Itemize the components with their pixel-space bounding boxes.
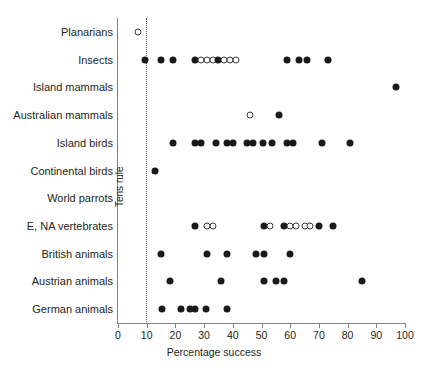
y-axis-category-label: Continental birds (0, 165, 113, 177)
data-point (212, 139, 219, 146)
data-point (272, 278, 279, 285)
data-point (261, 278, 268, 285)
data-point (330, 222, 337, 229)
x-tick (233, 323, 234, 328)
plot-area (118, 18, 405, 323)
x-tick (376, 323, 377, 328)
data-point (249, 139, 256, 146)
x-tick-label: 50 (256, 329, 268, 341)
data-point (290, 139, 297, 146)
x-tick-label: 20 (170, 329, 182, 341)
x-tick-label: 100 (396, 329, 414, 341)
data-point (304, 56, 311, 63)
data-point (158, 250, 165, 257)
x-tick-label: 70 (313, 329, 325, 341)
data-point (169, 56, 176, 63)
x-tick-label: 40 (227, 329, 239, 341)
data-point (178, 306, 185, 313)
data-point (268, 139, 275, 146)
data-point (259, 139, 266, 146)
data-point (166, 278, 173, 285)
data-point (247, 112, 254, 119)
data-point (292, 222, 299, 229)
x-tick-label: 90 (370, 329, 382, 341)
data-point (324, 56, 331, 63)
data-point (307, 222, 314, 229)
data-point (192, 306, 199, 313)
y-axis-category-label: Australian mammals (0, 109, 113, 121)
data-point (393, 84, 400, 91)
x-tick (147, 323, 148, 328)
x-tick-label: 60 (284, 329, 296, 341)
data-point (135, 28, 142, 35)
data-point (261, 250, 268, 257)
data-point (287, 250, 294, 257)
data-point (315, 222, 322, 229)
x-tick (348, 323, 349, 328)
y-axis-category-label: Island birds (0, 137, 113, 149)
y-axis-category-label: Planarians (0, 26, 113, 38)
x-tick (175, 323, 176, 328)
y-axis-labels: PlanariansInsectsIsland mammalsAustralia… (0, 0, 113, 377)
x-tick (319, 323, 320, 328)
data-point (358, 278, 365, 285)
data-point (218, 278, 225, 285)
x-tick (118, 323, 119, 328)
data-point (318, 139, 325, 146)
data-point (232, 56, 239, 63)
x-tick (405, 323, 406, 328)
data-point (267, 222, 274, 229)
x-tick-label: 80 (342, 329, 354, 341)
x-axis-title: Percentage success (0, 346, 428, 358)
y-axis-category-label: British animals (0, 248, 113, 260)
data-point (192, 222, 199, 229)
x-tick (262, 323, 263, 328)
data-point (295, 56, 302, 63)
data-point (224, 306, 231, 313)
y-axis-category-label: E, NA vertebrates (0, 220, 113, 232)
data-point (284, 56, 291, 63)
data-point (142, 56, 149, 63)
x-tick (204, 323, 205, 328)
scatter-chart: PlanariansInsectsIsland mammalsAustralia… (0, 0, 428, 377)
data-point (198, 139, 205, 146)
data-point (224, 250, 231, 257)
y-axis-category-label: Insects (0, 54, 113, 66)
x-tick-label: 10 (141, 329, 153, 341)
data-point (169, 139, 176, 146)
data-point (202, 306, 209, 313)
data-point (275, 112, 282, 119)
data-point (347, 139, 354, 146)
x-tick-label: 0 (115, 329, 121, 341)
data-point (159, 306, 166, 313)
data-point (158, 56, 165, 63)
y-axis-category-label: Island mammals (0, 81, 113, 93)
data-point (281, 278, 288, 285)
x-tick-label: 30 (198, 329, 210, 341)
data-point (252, 250, 259, 257)
x-tick (290, 323, 291, 328)
data-point (203, 250, 210, 257)
y-axis-category-label: World parrots (0, 192, 113, 204)
data-point (152, 167, 159, 174)
data-point (229, 139, 236, 146)
y-axis-category-label: Austrian animals (0, 275, 113, 287)
data-point (209, 222, 216, 229)
y-axis-category-label: German animals (0, 303, 113, 315)
